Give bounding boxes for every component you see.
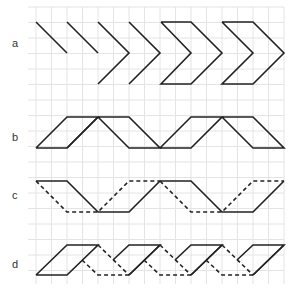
dashed-stroke — [144, 260, 191, 275]
pattern-diagram: a b c d — [0, 0, 297, 289]
row-labels: a b c d — [12, 37, 19, 270]
row-label-d: d — [12, 258, 18, 270]
dashed-stroke — [206, 260, 253, 275]
row-label-b: b — [12, 131, 18, 143]
row-label-a: a — [12, 37, 19, 49]
row-label-c: c — [12, 189, 18, 201]
dashed-stroke — [82, 260, 129, 275]
